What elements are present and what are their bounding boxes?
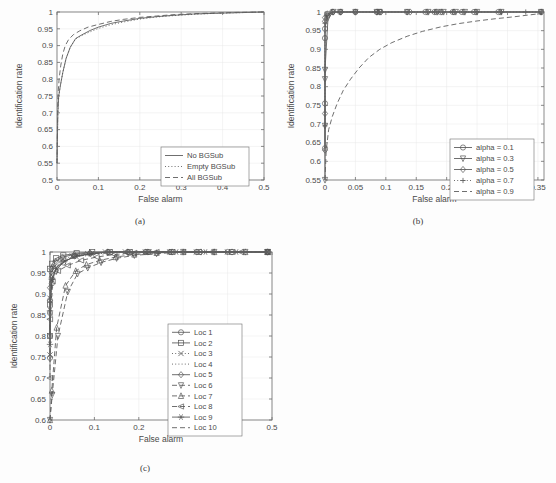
legend-label: alpha = 0.9 bbox=[476, 187, 514, 196]
panel-b-plot: 00.050.10.150.20.250.30.350.550.60.650.7… bbox=[280, 0, 556, 215]
y-tick-label: 0.65 bbox=[37, 125, 53, 134]
y-tick-label: 1 bbox=[49, 8, 54, 17]
legend-label: alpha = 0.5 bbox=[476, 165, 514, 174]
y-tick-label: 0.7 bbox=[35, 374, 47, 383]
legend-label: Loc 7 bbox=[194, 392, 213, 401]
panel-b-caption: (b) bbox=[280, 216, 556, 226]
legend-label: Loc 4 bbox=[194, 360, 213, 369]
x-tick-label: 0 bbox=[323, 183, 328, 192]
x-tick-label: 0.5 bbox=[266, 423, 278, 432]
y-tick-label: 0.65 bbox=[305, 138, 321, 147]
y-tick-label: 0.95 bbox=[305, 26, 321, 35]
y-tick-label: 0.75 bbox=[37, 92, 53, 101]
x-tick-label: 0 bbox=[48, 423, 53, 432]
x-tick-label: 0.1 bbox=[93, 183, 105, 192]
y-tick-label: 0.8 bbox=[42, 75, 54, 84]
legend-label: alpha = 0.3 bbox=[476, 154, 514, 163]
x-tick-label: 0.5 bbox=[258, 183, 270, 192]
legend-label: Empty BGSub bbox=[187, 162, 235, 171]
legend-label: Loc 1 bbox=[194, 328, 213, 337]
legend-label: All BGSub bbox=[187, 173, 222, 182]
legend-label: Loc 3 bbox=[194, 349, 213, 358]
panel-a-caption: (a) bbox=[0, 216, 280, 226]
y-tick-label: 0.55 bbox=[37, 159, 53, 168]
y-tick-label: 0.85 bbox=[30, 311, 46, 320]
y-tick-label: 0.65 bbox=[30, 395, 46, 404]
y-tick-label: 0.7 bbox=[310, 120, 322, 129]
panel-c-plot: 00.10.20.30.40.50.60.650.70.750.80.850.9… bbox=[0, 240, 290, 462]
x-tick-label: 0.15 bbox=[408, 183, 424, 192]
legend-label: Loc 6 bbox=[194, 381, 213, 390]
legend-label: Loc 5 bbox=[194, 370, 213, 379]
x-tick-label: 0.05 bbox=[348, 183, 364, 192]
y-tick-label: 0.9 bbox=[42, 41, 54, 50]
y-tick-label: 0.75 bbox=[305, 101, 321, 110]
y-tick-label: 1 bbox=[317, 8, 322, 17]
y-tick-label: 0.95 bbox=[37, 25, 53, 34]
y-tick-label: 0.85 bbox=[37, 58, 53, 67]
y-tick-label: 0.5 bbox=[42, 176, 54, 185]
x-tick-label: 0.2 bbox=[133, 423, 145, 432]
x-tick-label: 0.2 bbox=[134, 183, 146, 192]
y-axis-title: Identification rate bbox=[286, 63, 296, 128]
panel-b: 00.050.10.150.20.250.30.350.550.60.650.7… bbox=[280, 0, 556, 236]
y-tick-label: 0.6 bbox=[42, 142, 54, 151]
y-axis-title: Identification rate bbox=[14, 63, 24, 128]
y-tick-label: 0.8 bbox=[35, 332, 47, 341]
y-tick-label: 0.85 bbox=[305, 64, 321, 73]
legend-label: Loc 2 bbox=[194, 339, 213, 348]
y-tick-label: 0.9 bbox=[35, 290, 47, 299]
legend-label: Loc 8 bbox=[194, 402, 213, 411]
panel-a: 00.10.20.30.40.50.50.550.60.650.70.750.8… bbox=[0, 0, 280, 236]
legend-label: No BGSub bbox=[187, 151, 223, 160]
legend-label: alpha = 0.7 bbox=[476, 176, 514, 185]
x-tick-label: 0.1 bbox=[89, 423, 101, 432]
legend-label: Loc 9 bbox=[194, 413, 213, 422]
x-tick-label: 0 bbox=[55, 183, 60, 192]
y-tick-label: 0.6 bbox=[310, 157, 322, 166]
legend-label: Loc 10 bbox=[194, 423, 217, 432]
figure-root: 00.10.20.30.40.50.50.550.60.650.70.750.8… bbox=[0, 0, 556, 483]
x-tick-label: 0.1 bbox=[380, 183, 392, 192]
y-tick-label: 0.55 bbox=[305, 176, 321, 185]
y-tick-label: 0.9 bbox=[310, 45, 322, 54]
y-tick-label: 0.95 bbox=[30, 269, 46, 278]
y-tick-label: 0.7 bbox=[42, 109, 54, 118]
y-tick-label: 1 bbox=[42, 248, 47, 257]
y-tick-label: 0.75 bbox=[30, 353, 46, 362]
x-axis-title: False alarm bbox=[138, 194, 182, 204]
y-tick-label: 0.6 bbox=[35, 416, 47, 425]
panel-c-caption: (c) bbox=[0, 463, 290, 473]
panel-c: 00.10.20.30.40.50.60.650.70.750.80.850.9… bbox=[0, 240, 290, 483]
panel-a-plot: 00.10.20.30.40.50.50.550.60.650.70.750.8… bbox=[0, 0, 280, 215]
y-tick-label: 0.8 bbox=[310, 82, 322, 91]
y-axis-title: Identification rate bbox=[9, 303, 19, 368]
legend-label: alpha = 0.1 bbox=[476, 143, 514, 152]
